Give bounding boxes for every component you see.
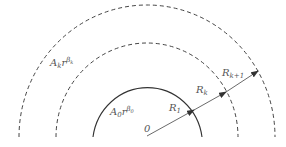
radius-label-r-1: R1 (168, 102, 181, 115)
concentric-radii-diagram: 0 A0rβ0 Akrβk R1 Rk Rk+1 (0, 0, 286, 147)
radius-label-r-k-plus-1: Rk+1 (221, 67, 244, 80)
radius-label-r-k: Rk (195, 84, 208, 97)
origin-label: 0 (144, 123, 151, 134)
arc-r-k-plus-1 (19, 5, 275, 137)
region-label-inner: A0rβ0 (109, 105, 135, 119)
region-label-outer: Akrβk (49, 56, 73, 70)
arrow-to-r-1 (147, 110, 194, 136)
